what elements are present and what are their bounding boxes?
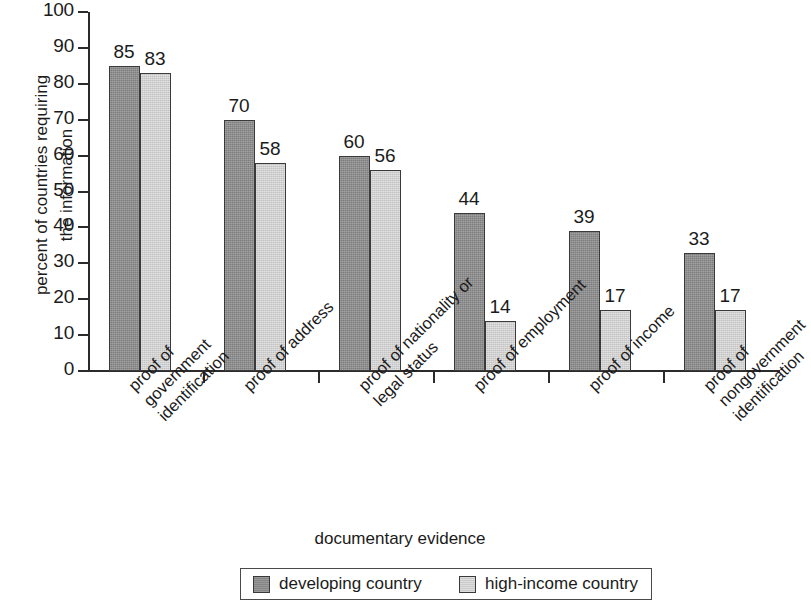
y-axis-tick-label: 0 (18, 358, 74, 380)
x-axis-tick (663, 372, 665, 383)
y-axis-tick-label: 40 (18, 214, 74, 236)
bar-value-label: 14 (489, 296, 510, 318)
bar-value-label: 83 (144, 48, 165, 70)
bar-developing: 33 (684, 253, 715, 371)
y-axis-tick-label: 10 (18, 322, 74, 344)
y-axis-tick-label: 100 (18, 0, 74, 21)
y-axis-tick (78, 191, 88, 193)
y-axis-tick (78, 370, 88, 372)
legend-swatch-high-income-country (459, 576, 476, 593)
y-axis-tick-label: 50 (18, 179, 74, 201)
bar-value-label: 39 (573, 206, 594, 228)
bar-developing: 85 (109, 66, 140, 371)
bar-value-label: 58 (259, 138, 280, 160)
y-axis-tick (78, 83, 88, 85)
legend-item-high-income-country: high-income country (459, 574, 638, 594)
bar-value-label: 56 (374, 145, 395, 167)
y-axis-tick-label: 80 (18, 71, 74, 93)
y-axis-tick (78, 119, 88, 121)
legend-item-developing-country: developing country (253, 574, 422, 594)
bar-developing: 60 (339, 156, 370, 371)
y-axis-tick-label: 60 (18, 143, 74, 165)
y-axis-tick (78, 47, 88, 49)
y-axis-tick (78, 262, 88, 264)
y-axis-tick (78, 298, 88, 300)
y-axis-tick (78, 226, 88, 228)
bar-value-label: 85 (113, 41, 134, 63)
legend: developing country high-income country (240, 568, 652, 600)
legend-label-high-income-country: high-income country (485, 574, 638, 594)
bar-developing: 70 (224, 120, 255, 371)
bar-value-label: 17 (604, 285, 625, 307)
y-axis-tick-label: 90 (18, 35, 74, 57)
legend-swatch-developing-country (253, 576, 270, 593)
x-axis-tick (548, 372, 550, 383)
y-axis-tick (78, 155, 88, 157)
x-axis-tick (433, 372, 435, 383)
legend-label-developing-country: developing country (279, 574, 422, 594)
bar-highincome: 83 (140, 73, 171, 371)
y-axis-tick-label: 70 (18, 107, 74, 129)
bar-value-label: 70 (228, 95, 249, 117)
bar-value-label: 60 (343, 131, 364, 153)
y-axis-tick-label: 30 (18, 250, 74, 272)
y-axis-tick (78, 11, 88, 13)
bar-value-label: 17 (719, 285, 740, 307)
y-axis-tick (78, 334, 88, 336)
bar-value-label: 44 (458, 188, 479, 210)
y-axis-tick-label: 20 (18, 286, 74, 308)
x-axis-tick (318, 372, 320, 383)
x-axis-title: documentary evidence (0, 529, 800, 549)
bar-value-label: 33 (688, 228, 709, 250)
